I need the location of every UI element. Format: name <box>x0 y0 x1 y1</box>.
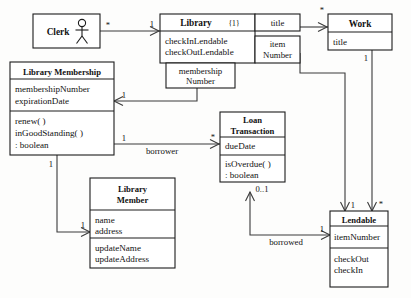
link-work-lendable <box>368 50 377 211</box>
library-member-attribute: name <box>95 215 115 225</box>
library-member-title-2: Member <box>117 195 149 205</box>
library-member-title-1: Library <box>118 184 148 194</box>
link-line <box>114 88 197 101</box>
link-line <box>250 192 330 235</box>
diagram-canvas: Clerk Library {1} checkInLendable checkO… <box>0 0 411 298</box>
multiplicity-work-one: 1 <box>364 53 368 63</box>
multiplicity-member-one: 1 <box>81 220 85 230</box>
library-operation: checkOutLendable <box>165 47 234 57</box>
library-membership-operation: : boolean <box>15 140 49 150</box>
clerk-title: Clerk <box>47 27 71 37</box>
lendable-title: Lendable <box>342 215 377 225</box>
lendable-operation: checkIn <box>334 265 363 275</box>
multiplicity-membership-one: 1 <box>122 90 126 100</box>
role-borrowed: borrowed <box>269 237 303 247</box>
link-library-work <box>300 23 328 32</box>
qualifier-item-number-label-2: Number <box>263 50 292 60</box>
loan-transaction-operation: isOverdue( ) <box>225 159 271 169</box>
library-member-attribute: address <box>95 226 123 236</box>
qualifier-membership-number-label-1: membership <box>179 66 223 76</box>
multiplicity-borrower-one: 1 <box>122 133 126 143</box>
class-box-library-membership[interactable]: Library Membership membershipNumber expi… <box>10 62 114 155</box>
qualifier-title[interactable]: title <box>255 14 300 31</box>
work-title: Work <box>349 19 373 29</box>
class-box-work[interactable]: Work title <box>328 14 392 50</box>
loan-transaction-title-1: Loan <box>243 115 262 125</box>
role-borrower: borrower <box>146 146 178 156</box>
multiplicity-lendable-one: 1 <box>351 200 355 210</box>
qualifier-item-number[interactable]: item Number <box>255 36 300 63</box>
library-operation: checkInLendable <box>165 36 228 46</box>
loan-transaction-title-2: Transaction <box>231 126 275 136</box>
multiplicity-loan-star: * <box>211 132 215 142</box>
class-box-library-member[interactable]: Library Member name address updateName u… <box>90 178 175 268</box>
class-box-library[interactable]: Library {1} checkInLendable checkOutLend… <box>160 14 255 63</box>
library-membership-title: Library Membership <box>23 67 101 77</box>
multiplicity-loan-zero-one: 0..1 <box>256 184 269 194</box>
work-attribute: title <box>333 37 347 47</box>
multiplicity-borrowed-one: 1 <box>320 224 324 234</box>
loan-transaction-operation: : boolean <box>225 170 259 180</box>
lendable-attribute: itemNumber <box>334 232 380 242</box>
multiplicity-library-one: 1 <box>150 19 154 29</box>
library-membership-operation: inGoodStanding( ) <box>15 128 83 138</box>
qualifier-membership-number[interactable]: membership Number <box>166 63 235 88</box>
class-box-loan-transaction[interactable]: Loan Transaction dueDate isOverdue( ) : … <box>220 112 285 182</box>
loan-transaction-attribute: dueDate <box>225 141 255 151</box>
multiplicity-lendable-star: * <box>379 199 383 209</box>
qualifier-title-label: title <box>271 18 285 28</box>
qualifier-item-number-label-1: item <box>270 39 286 49</box>
library-member-operation: updateName <box>95 243 141 253</box>
link-library-lendable <box>300 53 350 211</box>
library-annotation: {1} <box>228 19 239 28</box>
library-title: Library <box>180 18 212 28</box>
lendable-operation: checkOut <box>334 254 369 264</box>
qualifier-membership-number-label-2: Number <box>186 76 215 86</box>
library-membership-operation: renew( ) <box>15 116 46 126</box>
library-member-operation: updateAddress <box>95 254 150 264</box>
multiplicity-work-star: * <box>320 5 324 15</box>
uml-class-diagram: Clerk Library {1} checkInLendable checkO… <box>0 0 411 298</box>
link-library-membership <box>114 88 197 106</box>
link-line <box>300 53 345 211</box>
class-box-clerk[interactable]: Clerk <box>33 14 100 48</box>
link-lendable-loan <box>246 192 331 240</box>
library-membership-attribute: membershipNumber <box>15 84 90 94</box>
library-membership-attribute: expirationDate <box>15 96 69 106</box>
multiplicity-clerk-star: * <box>106 20 110 30</box>
class-box-lendable[interactable]: Lendable itemNumber checkOut checkIn <box>330 211 388 287</box>
multiplicity-membership-bottom-one: 1 <box>49 159 53 169</box>
